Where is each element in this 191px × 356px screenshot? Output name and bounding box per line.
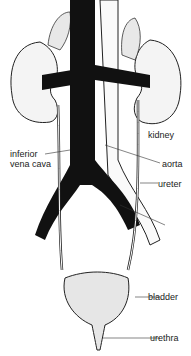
label-ivc-line1: inferior xyxy=(10,149,38,159)
label-ureter: ureter xyxy=(158,179,182,189)
label-ivc-line2: vena cava xyxy=(10,159,51,169)
label-kidney: kidney xyxy=(148,130,174,140)
left-adrenal xyxy=(48,12,71,50)
label-urethra: urethra xyxy=(150,333,179,343)
right-adrenal xyxy=(122,18,141,60)
urinary-system-diagram: kidney inferior vena cava aorta ureter b… xyxy=(0,0,191,356)
label-aorta: aorta xyxy=(162,159,183,169)
label-bladder: bladder xyxy=(148,292,178,302)
anatomy-illustration xyxy=(0,0,191,356)
